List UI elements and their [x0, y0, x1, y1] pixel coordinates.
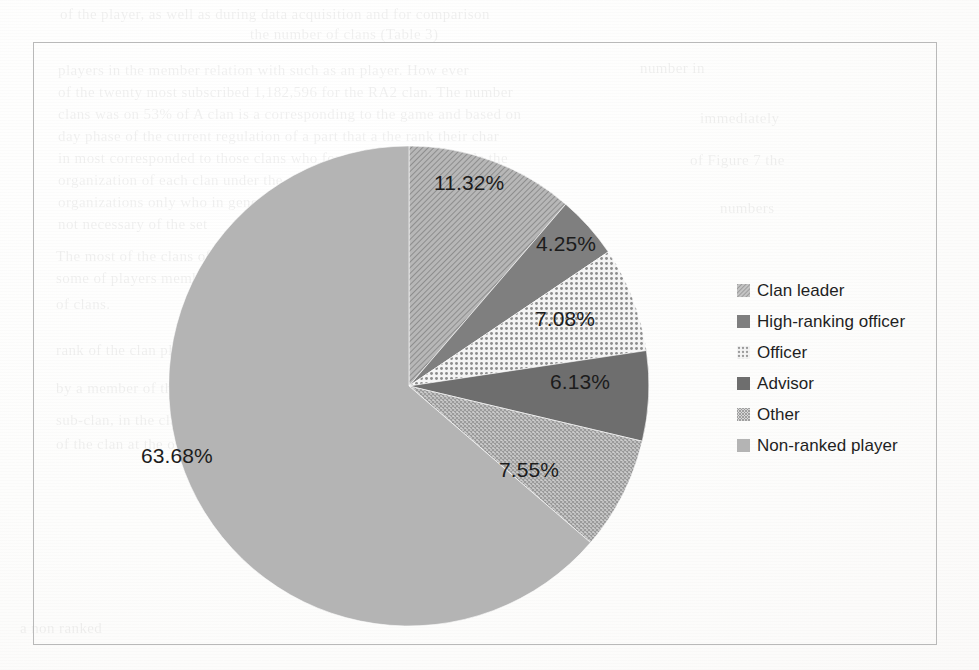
legend-item-non-ranked-player[interactable]: Non-ranked player [737, 430, 952, 461]
legend-swatch-other [737, 408, 750, 421]
legend-item-advisor[interactable]: Advisor [737, 368, 952, 399]
bleed-through-text: the number of clans (Table 3) [250, 26, 438, 43]
slice-label-clan-leader: 11.32% [434, 171, 504, 195]
legend-label-high-ranking-officer: High-ranking officer [757, 312, 905, 332]
slice-label-advisor: 6.13% [550, 370, 610, 394]
legend-swatch-clan-leader [737, 284, 750, 297]
legend: Clan leader High-ranking officer [737, 275, 952, 461]
slice-label-non-ranked-player: 63.68% [141, 444, 213, 468]
legend-swatch-non-ranked-player [737, 439, 750, 452]
legend-item-high-ranking-officer[interactable]: High-ranking officer [737, 306, 952, 337]
legend-label-other: Other [757, 405, 800, 425]
legend-swatch-officer [737, 346, 750, 359]
bleed-through-text: of the player, as well as during data ac… [60, 6, 490, 23]
chart-frame: 11.32% 4.25% 7.08% 6.13% 7.55% 63.68% [33, 42, 937, 645]
legend-item-clan-leader[interactable]: Clan leader [737, 275, 952, 306]
legend-item-officer[interactable]: Officer [737, 337, 952, 368]
slice-label-other: 7.55% [499, 458, 559, 482]
legend-label-clan-leader: Clan leader [757, 281, 845, 301]
slice-label-high-ranking-officer: 4.25% [536, 232, 596, 256]
legend-label-non-ranked-player: Non-ranked player [757, 436, 898, 456]
legend-swatch-high-ranking-officer [737, 315, 750, 328]
slice-label-officer: 7.08% [535, 307, 595, 331]
scanned-page: of the player, as well as during data ac… [0, 0, 979, 670]
pie-chart: 11.32% 4.25% 7.08% 6.13% 7.55% 63.68% [169, 146, 649, 626]
legend-swatch-advisor [737, 377, 750, 390]
legend-item-other[interactable]: Other [737, 399, 952, 430]
legend-label-officer: Officer [757, 343, 807, 363]
legend-label-advisor: Advisor [757, 374, 814, 394]
